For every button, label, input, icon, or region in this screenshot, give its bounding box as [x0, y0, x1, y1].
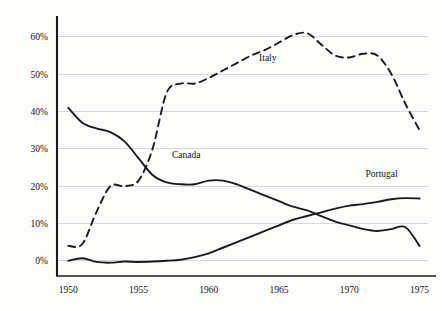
- x-tick-label: 1950: [59, 285, 78, 295]
- y-tick-label: 50%: [31, 70, 49, 80]
- series-label-canada: Canada: [172, 150, 201, 160]
- series-label-portugal: Portugal: [366, 169, 399, 179]
- y-tick-label: 40%: [31, 107, 49, 117]
- line-chart: 0%10%20%30%40%50%60% 1950195519601965197…: [0, 0, 442, 311]
- chart-canvas: 0%10%20%30%40%50%60% 1950195519601965197…: [0, 0, 442, 311]
- y-tick-label: 0%: [35, 256, 48, 266]
- x-tick-label: 1960: [199, 285, 218, 295]
- x-tick-label: 1970: [340, 285, 359, 295]
- x-tick-label: 1965: [270, 285, 289, 295]
- x-tick-label: 1975: [410, 285, 429, 295]
- chart-background: [0, 0, 442, 311]
- y-tick-label: 10%: [31, 219, 49, 229]
- y-tick-label: 20%: [31, 182, 49, 192]
- x-tick-label: 1955: [129, 285, 148, 295]
- series-label-italy: Italy: [259, 53, 277, 63]
- y-tick-label: 30%: [31, 144, 49, 154]
- y-tick-label: 60%: [31, 32, 49, 42]
